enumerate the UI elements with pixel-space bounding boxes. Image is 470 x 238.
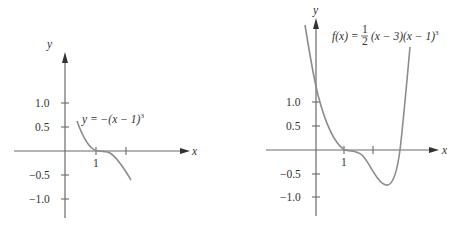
left-x-arrow-icon bbox=[180, 148, 190, 154]
left-chart: y x 1 1.0 0.5 −0.5 −1.0 y = −(x − 1)3 bbox=[14, 38, 198, 218]
left-y-tick-label: −1.0 bbox=[29, 193, 50, 205]
fraction-denominator: 2 bbox=[362, 35, 368, 47]
left-x-label: x bbox=[191, 145, 198, 157]
right-x-label: x bbox=[441, 144, 448, 156]
svg-text:f(x) =: f(x) = bbox=[332, 30, 359, 43]
right-x-arrow-icon bbox=[429, 147, 439, 153]
left-equation: y = −(x − 1)3 bbox=[81, 112, 144, 126]
right-x-tick-label: 1 bbox=[341, 156, 347, 168]
left-y-label: y bbox=[46, 38, 53, 51]
right-y-tick-label: −1.0 bbox=[280, 191, 301, 203]
right-chart: y x 1 1.0 0.5 −0.5 −1.0 f(x) = 1 2 (x − … bbox=[266, 4, 448, 216]
left-y-tick-label: 0.5 bbox=[35, 121, 50, 133]
left-y-arrow-icon bbox=[62, 52, 68, 63]
right-y-tick-label: 0.5 bbox=[286, 120, 301, 132]
figure: y x 1 1.0 0.5 −0.5 −1.0 y = −(x − 1)3 y … bbox=[0, 0, 470, 238]
right-y-tick-label: −0.5 bbox=[280, 168, 301, 180]
right-y-tick-label: 1.0 bbox=[286, 96, 301, 108]
right-y-label: y bbox=[312, 4, 319, 17]
left-y-tick-label: −0.5 bbox=[29, 169, 50, 181]
left-y-tick-label: 1.0 bbox=[35, 97, 50, 109]
left-x-tick-label: 1 bbox=[93, 157, 99, 169]
fraction-numerator: 1 bbox=[362, 23, 368, 35]
right-equation-body: (x − 3)(x − 1)3 bbox=[371, 29, 439, 43]
right-curve bbox=[305, 25, 410, 185]
right-y-arrow-icon bbox=[313, 18, 319, 29]
right-equation: f(x) = 1 2 (x − 3)(x − 1)3 bbox=[332, 23, 439, 47]
